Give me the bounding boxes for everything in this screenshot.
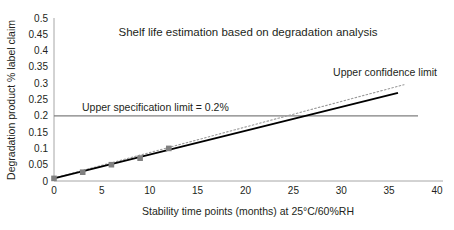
x-axis-title: Stability time points (months) at 25°C/6… xyxy=(142,205,354,217)
x-tick-label: 25 xyxy=(288,185,300,196)
x-tick-label: 5 xyxy=(99,185,105,196)
data-point-marker xyxy=(109,162,115,168)
y-tick-label: 0.2 xyxy=(34,110,48,121)
x-tick-label: 30 xyxy=(336,185,348,196)
y-tick-label: 0.05 xyxy=(29,159,49,170)
data-point-marker xyxy=(137,155,143,161)
x-tick-label: 40 xyxy=(431,185,443,196)
y-tick-label: 0 xyxy=(42,176,48,187)
y-tick-label: 0.1 xyxy=(34,143,48,154)
data-point-marker xyxy=(51,176,57,182)
x-tick-label: 10 xyxy=(144,185,156,196)
data-point-marker xyxy=(166,146,172,152)
chart-container: 0.5 0.45 0.4 0.35 0.3 0.25 0.2 0.15 0.1 … xyxy=(0,0,454,230)
data-point-marker xyxy=(80,169,86,175)
y-tick-label: 0.4 xyxy=(34,45,48,56)
chart-title: Shelf life estimation based on degradati… xyxy=(119,26,378,38)
x-tick-label: 15 xyxy=(192,185,204,196)
y-tick-label: 0.45 xyxy=(29,29,49,40)
upper-confidence-limit-label: Upper confidence limit xyxy=(333,66,437,78)
x-tick-label: 0 xyxy=(51,185,57,196)
x-tick-label: 35 xyxy=(384,185,396,196)
degradation-analysis-chart: 0.5 0.45 0.4 0.35 0.3 0.25 0.2 0.15 0.1 … xyxy=(0,0,454,230)
upper-specification-limit-label: Upper specification limit = 0.2% xyxy=(82,101,229,113)
y-tick-label: 0.35 xyxy=(29,61,49,72)
y-tick-label: 0.15 xyxy=(29,127,49,138)
x-tick-label: 20 xyxy=(240,185,252,196)
y-axis-title: Degradation product % label claim xyxy=(5,20,17,180)
y-tick-label: 0.25 xyxy=(29,94,49,105)
y-tick-label: 0.3 xyxy=(34,78,48,89)
y-tick-label: 0.5 xyxy=(34,13,48,24)
